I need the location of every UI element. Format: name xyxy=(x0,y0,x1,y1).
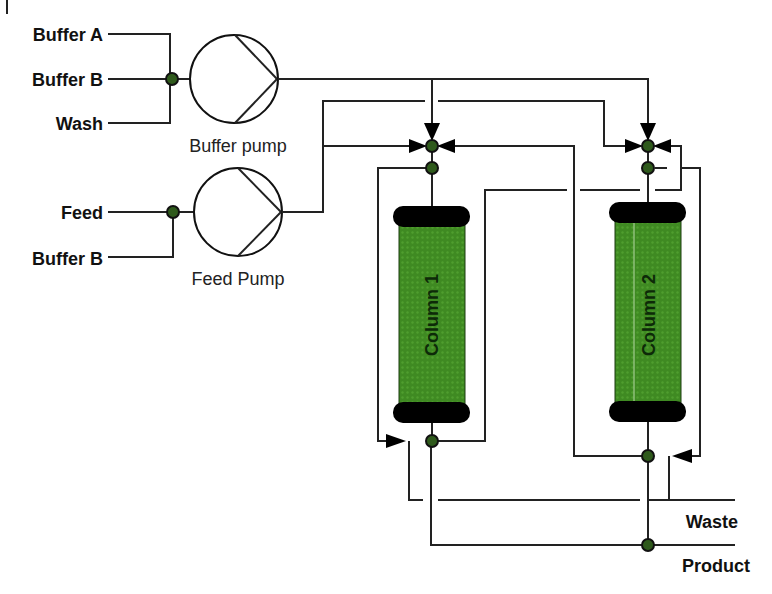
buffer-inputs: Buffer A Buffer B Wash xyxy=(32,25,192,134)
valve-node xyxy=(426,140,438,152)
column-cap-top xyxy=(393,206,470,227)
input-label-buffer-b-feed: Buffer B xyxy=(32,249,103,269)
feed-pump[interactable]: Feed Pump xyxy=(191,168,284,289)
arrow-right-icon xyxy=(386,434,406,448)
column-2-label: Column 2 xyxy=(639,274,659,356)
arrow-left-icon xyxy=(653,139,671,153)
column-cap-bottom xyxy=(393,402,470,423)
input-label-wash: Wash xyxy=(56,114,103,134)
pump-icon xyxy=(190,35,278,123)
input-label-buffer-a: Buffer A xyxy=(33,25,103,45)
input-label-buffer-b: Buffer B xyxy=(32,70,103,90)
arrow-right-icon xyxy=(409,139,427,153)
input-label-feed: Feed xyxy=(61,203,103,223)
valve-column-2[interactable] xyxy=(625,123,671,174)
pump-icon xyxy=(194,168,282,256)
column-cap-top xyxy=(609,202,686,223)
arrow-down-icon xyxy=(640,123,656,141)
buffer-pump[interactable]: Buffer pump xyxy=(189,35,287,156)
valve-node xyxy=(642,140,654,152)
arrow-left-icon xyxy=(672,449,692,463)
column-1-label: Column 1 xyxy=(422,274,442,356)
product-junction-node xyxy=(642,539,654,551)
buffer-pump-label: Buffer pump xyxy=(189,136,287,156)
outlet-node xyxy=(642,450,654,462)
arrow-left-icon xyxy=(437,139,455,153)
arrow-down-icon xyxy=(424,123,440,141)
output-label-product: Product xyxy=(682,556,750,576)
buffer-mix-node xyxy=(166,73,178,85)
arrow-right-icon xyxy=(625,139,643,153)
outlet-node xyxy=(426,435,438,447)
output-label-waste: Waste xyxy=(686,512,738,532)
feed-inputs: Feed Buffer B xyxy=(32,203,194,269)
valve-column-1[interactable] xyxy=(409,123,455,174)
feed-mix-node xyxy=(167,206,179,218)
column-1[interactable]: Column 1 xyxy=(393,206,470,447)
chromatography-flow-diagram: Buffer A Buffer B Wash Buffer pump Feed … xyxy=(0,0,772,594)
feed-pump-label: Feed Pump xyxy=(191,269,284,289)
column-cap-bottom xyxy=(609,401,686,422)
valve-node xyxy=(642,162,654,174)
valve-node xyxy=(426,162,438,174)
